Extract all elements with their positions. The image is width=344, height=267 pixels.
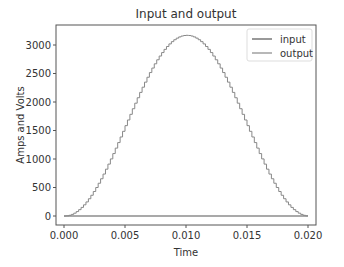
y-axis: 050010001500200025003000 <box>26 40 56 222</box>
svg-text:3000: 3000 <box>26 40 51 51</box>
legend: input output <box>247 29 313 61</box>
chart-title: Input and output <box>136 7 237 21</box>
svg-text:0.000: 0.000 <box>50 230 79 241</box>
svg-text:500: 500 <box>32 182 51 193</box>
x-axis: 0.0000.0050.0100.0150.020 <box>50 225 323 241</box>
legend-input-label: input <box>280 34 306 45</box>
svg-text:0.015: 0.015 <box>233 230 262 241</box>
svg-text:1500: 1500 <box>26 125 51 136</box>
chart: Input and output 05001000150020002500300… <box>0 0 344 267</box>
svg-text:2000: 2000 <box>26 97 51 108</box>
svg-text:1000: 1000 <box>26 154 51 165</box>
svg-text:2500: 2500 <box>26 68 51 79</box>
svg-text:0.010: 0.010 <box>172 230 201 241</box>
svg-text:0: 0 <box>45 211 51 222</box>
svg-text:0.020: 0.020 <box>294 230 323 241</box>
y-axis-label: Amps and Volts <box>15 86 26 163</box>
legend-output-label: output <box>280 48 313 59</box>
svg-text:0.005: 0.005 <box>111 230 140 241</box>
x-axis-label: Time <box>173 247 198 258</box>
